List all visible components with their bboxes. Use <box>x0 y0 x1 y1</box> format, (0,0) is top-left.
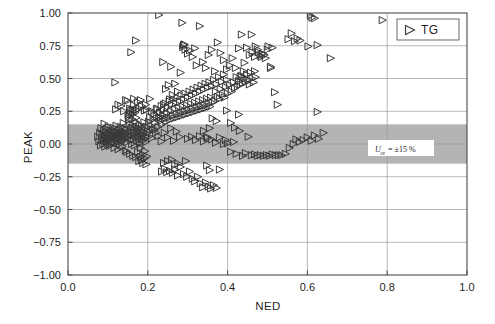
x-tick-label: 0.2 <box>140 281 155 293</box>
chart-canvas: U ce = ±15 % 1.000.750.500.250.00−0.25−0… <box>0 0 495 324</box>
y-tick-label: 0.25 <box>40 105 61 117</box>
y-tick-label: 0.00 <box>40 138 61 150</box>
y-tick-label: −0.25 <box>33 171 61 183</box>
legend-label: TG <box>421 23 438 37</box>
x-axis-title: NED <box>255 300 280 312</box>
y-tick-label: 0.75 <box>40 40 61 52</box>
y-tick-label: 0.50 <box>40 73 61 85</box>
y-axis-title: PEAK <box>22 131 34 163</box>
y-tick-label: −1.00 <box>33 269 61 281</box>
band-annotation-label: U ce = ±15 % <box>368 140 434 156</box>
x-tick-label: 0.4 <box>220 281 235 293</box>
y-tick-label: 1.00 <box>40 7 61 19</box>
legend[interactable]: TG <box>397 19 459 40</box>
y-axis-ticks: 1.000.750.500.250.00−0.25−0.50−0.75−1.00 <box>33 7 72 281</box>
band-label-value: = ±15 % <box>388 145 416 154</box>
x-tick-label: 0.0 <box>60 281 75 293</box>
x-tick-label: 1.0 <box>459 281 474 293</box>
y-tick-label: −0.50 <box>33 204 61 216</box>
y-tick-label: −0.75 <box>33 236 61 248</box>
x-tick-label: 0.6 <box>300 281 315 293</box>
scatter-plot-figure: U ce = ±15 % 1.000.750.500.250.00−0.25−0… <box>0 0 495 324</box>
x-tick-label: 0.8 <box>380 281 395 293</box>
band-label-subscript: ce <box>381 150 386 156</box>
